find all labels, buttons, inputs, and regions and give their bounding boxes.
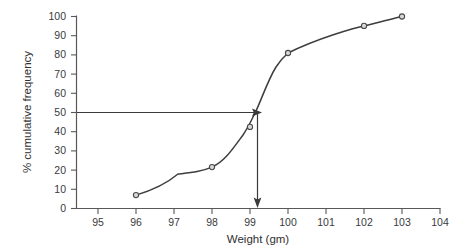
y-axis-ticks	[71, 17, 77, 209]
y-tick-label-10: 10	[54, 183, 66, 195]
cumulative-frequency-chart: 0 10 20 30 40 50 60 70 80 90 100	[0, 0, 465, 250]
data-point-100	[285, 50, 290, 55]
x-tick-label-104: 104	[431, 216, 449, 228]
x-tick-label-102: 102	[355, 216, 373, 228]
y-tick-label-40: 40	[54, 125, 66, 137]
x-tick-label-99: 99	[244, 216, 256, 228]
x-axis-title: Weight (gm)	[227, 233, 290, 245]
data-point-96	[133, 193, 138, 198]
y-tick-label-0: 0	[60, 202, 66, 214]
x-tick-label-95: 95	[92, 216, 104, 228]
data-point-99	[247, 124, 252, 129]
y-tick-label-90: 90	[54, 29, 66, 41]
y-tick-label-80: 80	[54, 48, 66, 60]
data-point-98	[209, 165, 214, 170]
x-tick-label-96: 96	[130, 216, 142, 228]
y-tick-label-70: 70	[54, 68, 66, 80]
median-vertical-arrow	[254, 113, 262, 209]
x-tick-label-97: 97	[168, 216, 180, 228]
x-axis-tick-labels: 95 96 97 98 99 100 101 102 103 104	[92, 216, 449, 228]
y-tick-label-20: 20	[54, 164, 66, 176]
data-point-102	[361, 23, 366, 28]
y-tick-label-30: 30	[54, 144, 66, 156]
data-markers	[133, 14, 404, 198]
x-tick-label-98: 98	[206, 216, 218, 228]
x-tick-label-101: 101	[317, 216, 335, 228]
x-tick-label-100: 100	[279, 216, 297, 228]
x-tick-label-103: 103	[393, 216, 411, 228]
median-horizontal-arrow	[77, 109, 262, 117]
cumulative-frequency-curve	[136, 17, 402, 196]
y-axis-title: % cumulative frequency	[21, 51, 33, 173]
x-axis-ticks	[98, 209, 440, 215]
y-tick-label-60: 60	[54, 87, 66, 99]
y-tick-label-100: 100	[48, 10, 66, 22]
chart-canvas: 0 10 20 30 40 50 60 70 80 90 100	[0, 0, 465, 250]
data-point-103	[399, 14, 404, 19]
y-tick-label-50: 50	[54, 106, 66, 118]
y-axis-tick-labels: 0 10 20 30 40 50 60 70 80 90 100	[48, 10, 66, 214]
